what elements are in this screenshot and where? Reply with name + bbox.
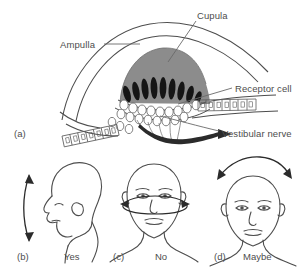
tilt-arrow-heads <box>217 168 292 180</box>
panel-d-head-maybe <box>0 0 305 276</box>
vestibular-system-figure: Cupula Ampulla Receptor cell Vestibular … <box>0 0 305 276</box>
panel-tag-d: (d) <box>214 251 226 262</box>
tilt-arrow-maybe <box>219 157 290 177</box>
panel-caption-d: Maybe <box>243 251 272 262</box>
